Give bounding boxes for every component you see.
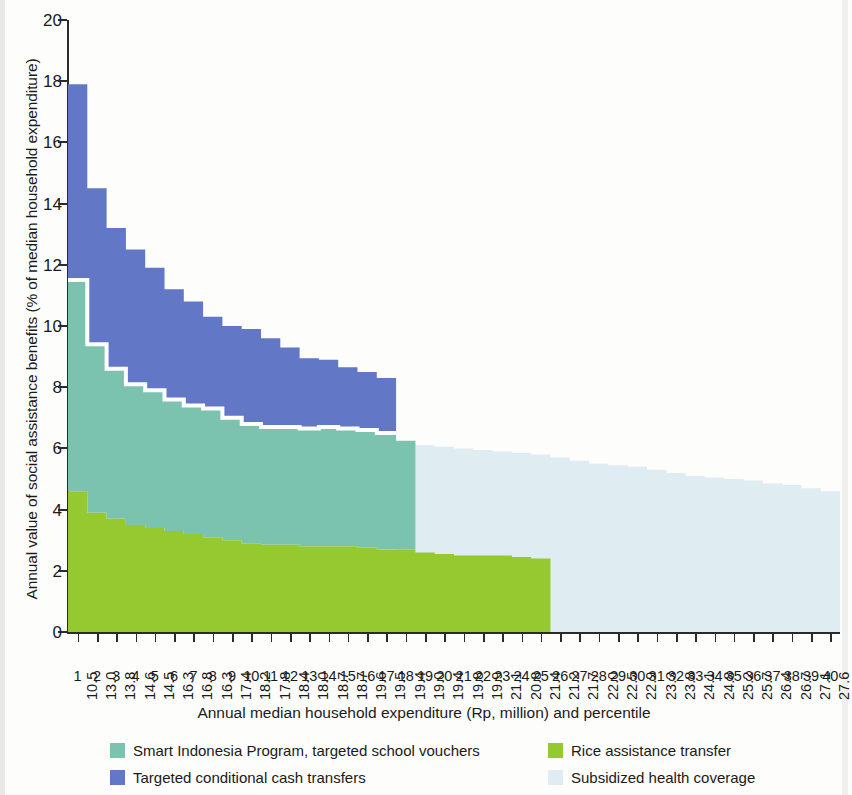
x-tick-mark xyxy=(309,634,311,642)
x-tick-mark xyxy=(444,634,446,642)
y-tick-label: 20 xyxy=(22,12,62,29)
x-tick-mark xyxy=(792,634,794,642)
plot-area xyxy=(68,20,840,632)
legend-label-rice-assistance: Rice assistance transfer xyxy=(571,742,731,759)
y-axis-tick-labels: 02468101214161820 xyxy=(22,0,62,660)
y-tick-mark xyxy=(58,386,67,388)
x-tick-mark xyxy=(367,634,369,642)
y-tick-mark xyxy=(58,509,67,511)
x-tick-mark xyxy=(541,634,543,642)
y-tick-label: 0 xyxy=(22,624,62,641)
legend-label-targeted-cct: Targeted conditional cash transfers xyxy=(133,769,366,786)
y-tick-label: 18 xyxy=(22,73,62,90)
chart-legend: Smart Indonesia Program, targeted school… xyxy=(0,742,848,792)
x-tick-mark xyxy=(715,634,717,642)
legend-swatch-targeted-cct xyxy=(110,770,125,785)
y-tick-mark xyxy=(58,80,67,82)
legend-label-smart-indonesia: Smart Indonesia Program, targeted school… xyxy=(133,742,480,759)
x-tick-mark xyxy=(657,634,659,642)
x-tick-mark xyxy=(676,634,678,642)
stacked-area-series xyxy=(68,20,840,632)
x-tick-mark xyxy=(502,634,504,642)
y-tick-mark xyxy=(58,264,67,266)
x-tick-mark xyxy=(271,634,273,642)
x-tick-mark xyxy=(522,634,524,642)
x-tick-mark xyxy=(78,634,80,642)
x-tick-mark xyxy=(618,634,620,642)
y-tick-label: 12 xyxy=(22,256,62,273)
x-tick-mark xyxy=(329,634,331,642)
x-tick-mark xyxy=(97,634,99,642)
x-tick-mark xyxy=(772,634,774,642)
legend-swatch-smart-indonesia xyxy=(110,743,125,758)
x-tick-mark xyxy=(464,634,466,642)
legend-item-smart-indonesia[interactable]: Smart Indonesia Program, targeted school… xyxy=(110,742,480,759)
x-tick-mark xyxy=(579,634,581,642)
x-tick-mark xyxy=(232,634,234,642)
x-tick-mark xyxy=(406,634,408,642)
y-tick-mark xyxy=(58,19,67,21)
x-tick-mark xyxy=(193,634,195,642)
x-tick-mark xyxy=(753,634,755,642)
legend-item-targeted-cct[interactable]: Targeted conditional cash transfers xyxy=(110,769,366,786)
x-tick-mark xyxy=(734,634,736,642)
x-tick-mark xyxy=(251,634,253,642)
y-tick-label: 2 xyxy=(22,562,62,579)
x-tick-mark xyxy=(830,634,832,642)
y-tick-mark xyxy=(58,325,67,327)
x-tick-mark xyxy=(386,634,388,642)
x-tick-mark xyxy=(811,634,813,642)
y-tick-label: 16 xyxy=(22,134,62,151)
y-tick-mark xyxy=(58,203,67,205)
y-tick-mark xyxy=(58,631,67,633)
y-tick-label: 4 xyxy=(22,501,62,518)
y-tick-label: 14 xyxy=(22,195,62,212)
x-tick-mark xyxy=(637,634,639,642)
x-tick-mark xyxy=(560,634,562,642)
y-tick-label: 10 xyxy=(22,318,62,335)
legend-label-subsidized-health: Subsidized health coverage xyxy=(571,769,755,786)
x-tick-mark xyxy=(174,634,176,642)
x-tick-mark xyxy=(483,634,485,642)
y-tick-mark xyxy=(58,570,67,572)
legend-item-subsidized-health[interactable]: Subsidized health coverage xyxy=(548,769,755,786)
legend-row-2: Targeted conditional cash transfers Subs… xyxy=(0,769,848,792)
x-tick-mark xyxy=(425,634,427,642)
x-axis-line xyxy=(67,632,840,634)
y-tick-label: 6 xyxy=(22,440,62,457)
legend-row-1: Smart Indonesia Program, targeted school… xyxy=(0,742,848,765)
x-tick-mark xyxy=(348,634,350,642)
y-tick-label: 8 xyxy=(22,379,62,396)
legend-swatch-rice-assistance xyxy=(548,743,563,758)
x-tick-mark xyxy=(155,634,157,642)
y-tick-mark xyxy=(58,141,67,143)
x-tick-mark xyxy=(116,634,118,642)
legend-item-rice-assistance[interactable]: Rice assistance transfer xyxy=(548,742,731,759)
x-tick-mark xyxy=(599,634,601,642)
legend-swatch-subsidized-health xyxy=(548,770,563,785)
y-tick-mark xyxy=(58,447,67,449)
x-percentile-label: 40 xyxy=(817,668,843,684)
x-tick-mark xyxy=(695,634,697,642)
x-tick-mark xyxy=(136,634,138,642)
x-tick-mark xyxy=(290,634,292,642)
x-tick-mark xyxy=(213,634,215,642)
x-axis-title: Annual median household expenditure (Rp,… xyxy=(0,704,848,722)
